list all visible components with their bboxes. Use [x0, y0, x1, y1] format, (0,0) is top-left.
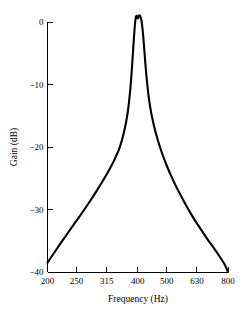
y-tick-label: −40	[29, 267, 44, 277]
y-axis-title: Gain (dB)	[9, 128, 20, 166]
x-tick-label: 630	[190, 276, 204, 286]
x-axis-title: Frequency (Hz)	[108, 294, 168, 305]
y-axis-tick-labels: 0−10−20−30−40	[29, 17, 44, 277]
x-tick-label: 500	[160, 276, 174, 286]
y-axis-tick-marks	[48, 22, 53, 272]
x-axis-tick-labels: 200250315400500630800	[41, 276, 236, 286]
y-tick-label: −10	[29, 80, 44, 90]
x-tick-label: 250	[70, 276, 84, 286]
x-tick-label: 200	[41, 276, 55, 286]
gain-response-curve	[48, 15, 229, 272]
x-axis-tick-marks	[48, 267, 229, 272]
y-tick-label: −30	[29, 205, 44, 215]
gain-vs-frequency-chart: 200250315400500630800 0−10−20−30−40 Freq…	[0, 0, 242, 315]
y-tick-label: −20	[29, 142, 44, 152]
x-tick-label: 315	[100, 276, 114, 286]
figure-container: 200250315400500630800 0−10−20−30−40 Freq…	[0, 0, 242, 315]
x-tick-label: 400	[131, 276, 145, 286]
x-tick-label: 800	[221, 276, 235, 286]
y-tick-label: 0	[39, 17, 44, 27]
